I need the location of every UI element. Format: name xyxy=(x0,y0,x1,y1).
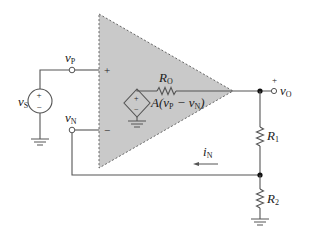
label-vn: vN xyxy=(65,110,77,126)
dep-plus: + xyxy=(134,94,139,103)
vo-terminal xyxy=(271,88,276,93)
vs-plus: + xyxy=(37,90,42,100)
vs-minus: − xyxy=(37,102,42,112)
label-vo: vO xyxy=(280,83,292,99)
r1-resistor-icon xyxy=(257,127,264,146)
opamp-minus-sign: − xyxy=(104,124,110,136)
label-vs: vS xyxy=(18,94,28,110)
label-r1: R1 xyxy=(266,128,279,144)
wire-vs-top xyxy=(40,70,69,89)
label-r2: R2 xyxy=(266,191,279,207)
dep-minus: − xyxy=(134,105,139,114)
vo-plus: + xyxy=(272,75,277,85)
label-in: iN xyxy=(203,144,213,160)
vp-terminal xyxy=(69,67,75,73)
circuit-diagram: + − + − + − + xyxy=(0,0,309,242)
opamp-plus-sign: + xyxy=(104,64,110,76)
in-arrow-icon xyxy=(193,162,218,166)
ground-icon-r2 xyxy=(251,219,269,225)
r2-resistor-icon xyxy=(257,189,264,208)
vn-terminal xyxy=(69,127,75,133)
label-vp: vP xyxy=(65,50,76,66)
ground-icon-vs xyxy=(31,139,49,145)
